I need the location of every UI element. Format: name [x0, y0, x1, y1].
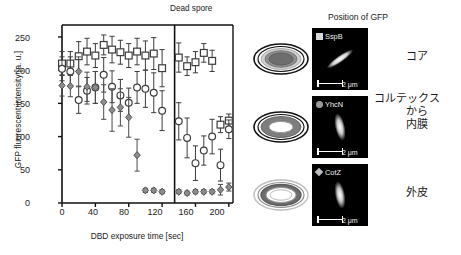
scale-label-sspb: 2 μm: [342, 81, 358, 88]
jp-label-cortex-2: から: [374, 105, 460, 118]
figure-root: GFP fluorescent intensity [a. u.] DBD ex…: [0, 0, 461, 255]
scale-bar-icon: [317, 219, 343, 221]
scatter-plot: [0, 0, 250, 255]
spore-schematic-cortex: [252, 96, 310, 158]
panel-row-cotz: CotZ 2 μm 外皮: [250, 164, 461, 226]
panel-title: Position of GFP: [298, 12, 418, 22]
micrograph-sspb: SspB 2 μm: [312, 28, 368, 90]
spore-image-yhcn: [312, 96, 368, 158]
panel-row-sspb: SspB 2 μm コア: [250, 28, 461, 90]
micrograph-yhcn: YhcN 2 μm: [312, 96, 368, 158]
micrograph-cotz: CotZ 2 μm: [312, 164, 368, 226]
scale-bar-icon: [317, 83, 343, 85]
spore-schematic-coat: [252, 164, 310, 226]
series-yhcn: [59, 57, 233, 181]
jp-label-coat: 外皮: [374, 186, 460, 199]
panel-row-yhcn: YhcN 2 μm コルテックス から 内膜: [250, 96, 461, 158]
scale-label-cotz: 2 μm: [342, 217, 358, 224]
scale-bar-icon: [317, 151, 343, 153]
spore-schematic-core: [252, 28, 310, 90]
gfp-position-panel: Position of GFP SspB: [250, 0, 461, 255]
scale-label-yhcn: 2 μm: [342, 149, 358, 156]
jp-label-cortex-3: 内膜: [374, 118, 460, 131]
spore-image-cotz: [312, 164, 368, 226]
jp-label-cortex-1: コルテックス: [374, 92, 460, 105]
chart-panel: GFP fluorescent intensity [a. u.] DBD ex…: [0, 0, 250, 255]
spore-image-sspb: [312, 28, 368, 90]
jp-label-core: コア: [374, 50, 460, 63]
